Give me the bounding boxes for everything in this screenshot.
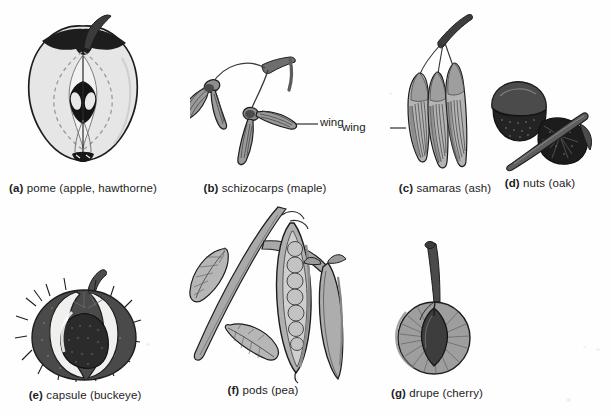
panel-pods: (f) pods (pea)	[178, 205, 348, 385]
caption-label: (c)	[399, 182, 413, 194]
panel-pome: (a) pome (apple, hawthorne)	[18, 8, 148, 178]
schizocarps-illustration	[190, 40, 340, 175]
callout-wing-maple: wing	[320, 116, 344, 128]
caption-text: pods (pea)	[243, 384, 299, 396]
nuts-illustration	[480, 70, 600, 175]
caption-label: (d)	[505, 177, 520, 189]
caption-text: nuts (oak)	[523, 177, 575, 189]
caption-text: pome (apple, hawthorne)	[27, 182, 157, 194]
caption-nuts: (d) nuts (oak)	[455, 176, 611, 190]
panel-drupe: (g) drupe (cherry)	[382, 238, 492, 384]
caption-pods: (f) pods (pea)	[178, 383, 348, 397]
caption-text: drupe (cherry)	[409, 387, 483, 399]
caption-label: (e)	[29, 389, 43, 401]
capsule-illustration	[14, 268, 154, 386]
pome-illustration	[18, 8, 148, 178]
caption-text: capsule (buckeye)	[46, 389, 141, 401]
caption-drupe: (g) drupe (cherry)	[352, 386, 522, 400]
caption-schizocarps: (b) schizocarps (maple)	[160, 181, 370, 195]
callout-text: wing	[342, 121, 366, 133]
panel-capsule: (e) capsule (buckeye)	[14, 268, 154, 386]
caption-text: schizocarps (maple)	[222, 182, 327, 194]
scan-speckle	[566, 398, 571, 402]
callout-text: wing	[320, 116, 344, 128]
fruit-types-figure: (a) pome (apple, hawthorne)	[0, 0, 611, 416]
caption-label: (a)	[9, 182, 23, 194]
drupe-illustration	[382, 238, 492, 384]
caption-pome: (a) pome (apple, hawthorne)	[0, 181, 166, 195]
pods-illustration	[178, 205, 348, 385]
caption-label: (f)	[227, 384, 239, 396]
panel-schizocarps: wing (b) schizocarps (maple)	[190, 40, 340, 175]
panel-nuts: (d) nuts (oak)	[480, 70, 600, 175]
scan-speckle	[596, 348, 600, 351]
caption-label: (g)	[391, 387, 406, 399]
callout-wing-ash: wing	[342, 121, 366, 133]
caption-label: (b)	[203, 182, 218, 194]
caption-capsule: (e) capsule (buckeye)	[2, 388, 168, 402]
scan-speckle	[583, 346, 586, 348]
